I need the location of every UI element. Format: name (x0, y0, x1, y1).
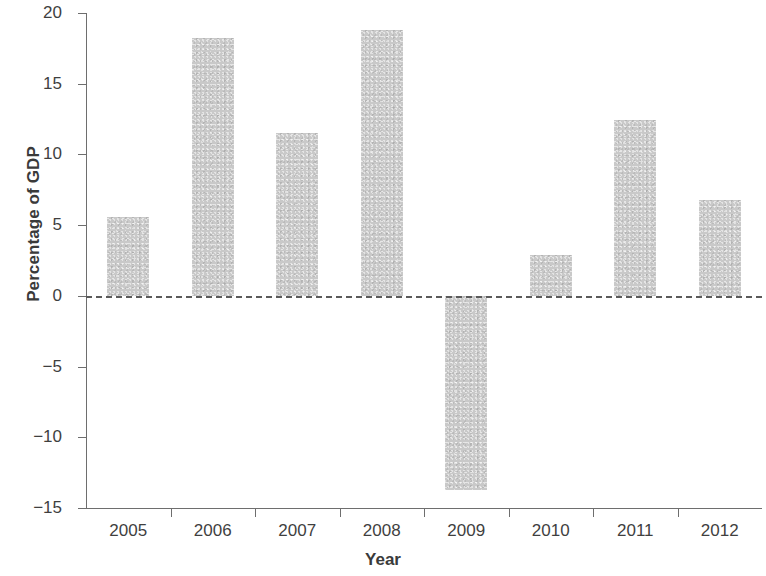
y-tick-mark (78, 225, 86, 226)
x-tick-mark (171, 508, 172, 517)
x-tick-label: 2006 (194, 521, 232, 541)
bar-2012 (699, 200, 741, 296)
x-axis-title: Year (0, 550, 766, 570)
x-tick-label: 2005 (109, 521, 147, 541)
x-tick-label: 2008 (363, 521, 401, 541)
x-tick-mark (340, 508, 341, 517)
bar-2005 (107, 217, 149, 296)
x-tick-mark (424, 508, 425, 517)
x-tick-label: 2011 (617, 521, 654, 541)
bar-2010 (530, 255, 572, 296)
y-tick-mark (78, 154, 86, 155)
y-tick-label: −5 (0, 357, 66, 377)
zero-line (86, 296, 762, 298)
x-tick-mark (509, 508, 510, 517)
y-tick-label: −15 (0, 498, 66, 518)
x-tick-label: 2009 (447, 521, 485, 541)
y-tick-mark (78, 508, 86, 509)
bar-2011 (614, 120, 656, 295)
bar-2007 (276, 133, 318, 296)
x-tick-label: 2007 (278, 521, 316, 541)
x-tick-mark (593, 508, 594, 517)
x-tick-label: 2012 (701, 521, 739, 541)
y-tick-label: 0 (0, 286, 66, 306)
bar-2008 (361, 30, 403, 296)
y-tick-label: 5 (0, 215, 66, 235)
y-axis-line (86, 13, 87, 509)
y-tick-label: 10 (0, 144, 66, 164)
y-tick-mark (78, 13, 86, 14)
x-tick-mark (255, 508, 256, 517)
bar-2006 (192, 38, 234, 295)
y-tick-label: 15 (0, 74, 66, 94)
y-tick-mark (78, 437, 86, 438)
y-tick-label: −10 (0, 427, 66, 447)
y-tick-label: 20 (0, 3, 66, 23)
y-tick-mark (78, 84, 86, 85)
bar-chart: Percentage of GDP 20151050−5−10−15 20052… (0, 0, 766, 576)
y-tick-mark (78, 296, 86, 297)
x-tick-mark (678, 508, 679, 517)
x-tick-label: 2010 (532, 521, 570, 541)
y-tick-mark (78, 367, 86, 368)
bar-2009 (445, 296, 487, 490)
